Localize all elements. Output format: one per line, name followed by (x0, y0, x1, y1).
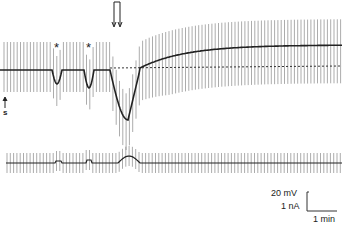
stimulus-arrow-icon (3, 97, 7, 108)
voltage-trace (0, 45, 342, 120)
stimulus-label: s (3, 108, 7, 117)
scale-bar (307, 192, 337, 211)
current-pulses (7, 146, 340, 173)
double-arrow-icon (112, 2, 122, 27)
scale-voltage-label: 20 mV (271, 188, 297, 198)
voltage-pulses (4, 19, 341, 150)
scale-current-label: 1 nA (281, 201, 300, 211)
asterisk-marker-1: * (54, 40, 59, 55)
asterisk-marker-2: * (86, 40, 91, 55)
scale-time-label: 1 min (313, 214, 335, 224)
